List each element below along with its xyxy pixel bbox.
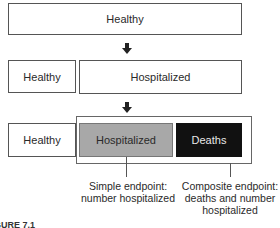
healthy-state-box-row2: Healthy <box>8 60 76 93</box>
simple-endpoint-connector <box>126 157 127 177</box>
deaths-label: Deaths <box>192 134 227 146</box>
healthy-state-box-row3: Healthy <box>8 123 76 157</box>
hospitalized-label: Hospitalized <box>131 71 191 83</box>
healthy-label: Healthy <box>106 13 143 25</box>
healthy-label: Healthy <box>23 71 60 83</box>
deaths-state-box: Deaths <box>176 123 242 157</box>
hospitalized-label: Hospitalized <box>96 134 156 146</box>
down-arrow-icon <box>122 102 132 113</box>
composite-endpoint-label: Composite endpoint: deaths and number ho… <box>180 180 280 216</box>
healthy-state-box-row1: Healthy <box>8 3 242 35</box>
simple-endpoint-label: Simple endpoint: number hospitalized <box>76 180 180 204</box>
healthy-label: Healthy <box>23 134 60 146</box>
composite-endpoint-connector <box>230 163 231 177</box>
hospitalized-state-box-row3: Hospitalized <box>79 123 173 157</box>
down-arrow-icon <box>122 43 132 54</box>
figure-caption: FIGURE 7.1 <box>0 220 35 228</box>
hospitalized-state-box-row2: Hospitalized <box>79 60 242 94</box>
